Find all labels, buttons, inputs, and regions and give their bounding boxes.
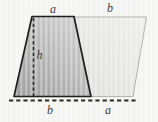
paper-texture-overlay (0, 0, 158, 122)
label-b-bottom: b (47, 103, 53, 117)
trapezoid-parallelogram-diagram: a b h b a (0, 0, 158, 122)
label-b-top: b (107, 1, 113, 15)
label-a-top: a (50, 2, 56, 16)
label-a-bottom: a (105, 103, 111, 117)
label-h-height: h (37, 48, 43, 62)
geometry-figure: a b h b a (0, 0, 158, 122)
